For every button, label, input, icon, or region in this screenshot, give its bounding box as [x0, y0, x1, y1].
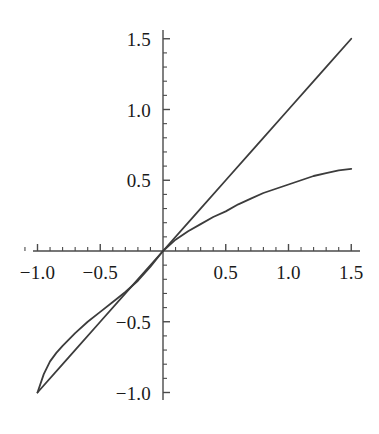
data-series-group [38, 39, 352, 393]
y-tick-label: 1.0 [127, 100, 151, 119]
x-tick-label: −1.0 [20, 263, 55, 282]
x-tick-label: 0.5 [214, 263, 238, 282]
x-tick-label: 1.5 [339, 263, 363, 282]
y-tick-label: −1.0 [116, 383, 151, 402]
plot-canvas [0, 0, 379, 434]
y-tick-label: 0.5 [127, 171, 151, 190]
x-tick-label: −0.5 [83, 263, 118, 282]
series-identity-line [38, 39, 352, 393]
tick-marks-group [25, 39, 351, 393]
y-tick-label: 1.5 [127, 29, 151, 48]
plot-figure: −1.0−0.50.51.01.5 1.51.00.5−0.5−1.0 [0, 0, 379, 434]
y-tick-label: −0.5 [116, 312, 151, 331]
x-tick-label: 1.0 [276, 263, 300, 282]
